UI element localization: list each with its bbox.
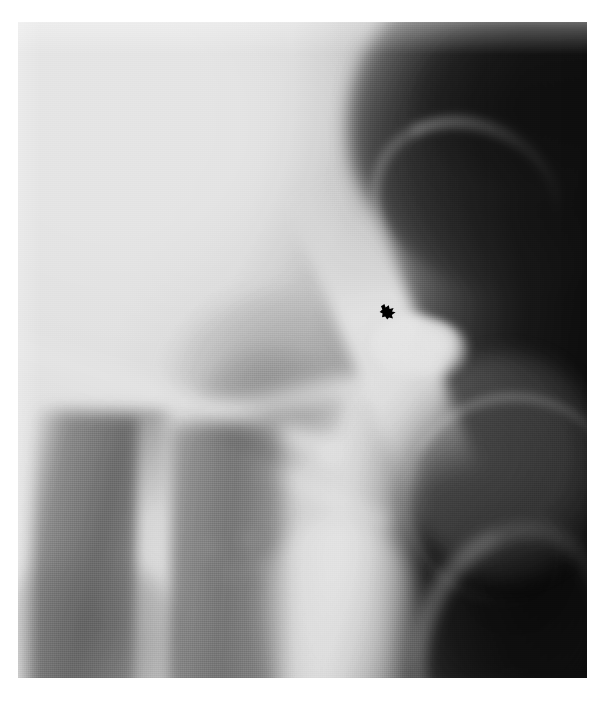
mid-grey-soft-tissue [408, 352, 587, 582]
radiograph-image [18, 22, 587, 678]
arrow-icon [379, 303, 397, 320]
bright-crossing-band-lower [172, 417, 394, 538]
bright-rim-arc [349, 92, 579, 305]
film-grain-overlay [18, 22, 587, 678]
halftone-dither-overlay [18, 22, 587, 678]
left-shaft-dark-band-2 [153, 420, 291, 678]
bottom-left-dark-shadow [18, 558, 188, 678]
left-shaft-dark-band-1 [25, 410, 167, 678]
bottom-centre-bright-wedge [258, 518, 418, 678]
lower-right-dark-shadow [377, 408, 587, 678]
mid-left-dark-oval [148, 267, 378, 478]
lower-right-bright-curve [380, 497, 587, 678]
bright-diagonal-cortex [284, 165, 480, 500]
fine-vessel-cluster [178, 512, 288, 602]
contrast-opacity-neck [365, 347, 447, 466]
mid-left-dark-oval-lower [183, 335, 352, 484]
right-dark-column [377, 22, 587, 678]
right-grey-arc [384, 374, 587, 621]
central-bright-sheet [268, 382, 418, 678]
contrast-opacity-blob [370, 314, 456, 376]
upper-right-dark-shadow [348, 22, 587, 292]
contrast-opacity-blob-secondary [410, 322, 468, 378]
bright-crossing-band-upper [18, 321, 347, 476]
left-shaft-bright-ridge [133, 417, 172, 678]
bright-crossing-band-mid [77, 363, 378, 463]
upper-right-dark-lobe [413, 22, 587, 202]
plate-edge-vignette [18, 22, 587, 678]
figure-root [0, 0, 605, 704]
